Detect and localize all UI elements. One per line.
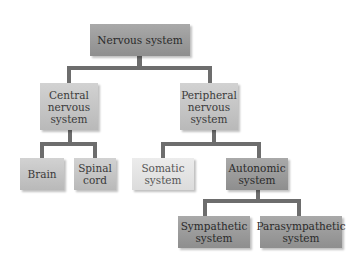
node-label-line: Autonomic [228,162,285,174]
connector-somatic-up [161,142,165,158]
node-label-line: cord [83,174,107,186]
connector-autonomic-up [257,142,261,158]
node-spinal-cord: Spinal cord [74,158,116,190]
node-label-line: system [144,174,181,186]
node-label-line: system [190,113,227,125]
connector-brain-up [40,142,44,158]
connector-parasympathetic-up [297,199,301,216]
node-label-line: system [238,174,275,186]
node-label-line: nervous [48,101,90,113]
node-sympathetic-system: Sympathetic system [178,216,250,248]
node-label-line: Sympathetic [181,220,248,232]
node-brain: Brain [20,158,64,190]
connector-autonomic-horizontal [203,199,301,203]
node-label-line: system [50,113,87,125]
node-label-line: system [195,232,232,244]
node-label: Brain [27,168,56,180]
node-peripheral-nervous-system: Peripheral nervous system [180,83,238,130]
node-nervous-system: Nervous system [90,24,190,56]
node-label-line: Parasympathetic [256,220,345,232]
node-label-line: Spinal [78,162,112,174]
node-label-line: nervous [188,101,230,113]
node-label-line: Central [49,89,89,101]
connector-pns-horizontal [161,142,261,146]
connector-spinal-up [93,142,97,158]
connector-cns-up [67,66,71,83]
node-label-line: Somatic [141,162,184,174]
connector-pns-up [208,66,212,83]
node-autonomic-system: Autonomic system [226,158,288,190]
connector-root-horizontal [67,66,212,70]
node-label: Nervous system [97,34,182,46]
connector-cns-horizontal [40,142,97,146]
node-central-nervous-system: Central nervous system [40,83,98,130]
node-label-line: Peripheral [181,89,237,101]
node-label-line: system [282,232,319,244]
node-parasympathetic-system: Parasympathetic system [260,216,342,248]
node-somatic-system: Somatic system [132,158,194,190]
connector-sympathetic-up [203,199,207,216]
